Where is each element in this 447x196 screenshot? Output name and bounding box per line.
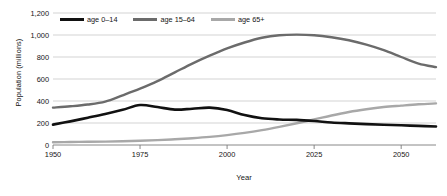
x-axis-title: Year <box>53 173 435 182</box>
legend-swatch-2 <box>211 18 235 20</box>
x-tick-label-2025: 2025 <box>306 150 322 159</box>
plot-area <box>0 0 447 196</box>
x-tick-label-2000: 2000 <box>219 150 235 159</box>
legend-label-0: age 0–14 <box>87 16 117 23</box>
chart-legend: age 0–14age 15–64age 65+ <box>60 16 265 23</box>
legend-item-1[interactable]: age 15–64 <box>133 16 195 23</box>
legend-swatch-0 <box>60 18 84 21</box>
population-line-chart: Population (millions) 02004006008001,000… <box>0 0 447 196</box>
x-tick-label-1950: 1950 <box>45 150 61 159</box>
series-line-age-15-64 <box>53 35 436 108</box>
x-tick-label-2050: 2050 <box>393 150 409 159</box>
legend-item-0[interactable]: age 0–14 <box>60 16 117 23</box>
legend-item-2[interactable]: age 65+ <box>211 16 265 23</box>
x-tick-label-1975: 1975 <box>132 150 148 159</box>
legend-label-2: age 65+ <box>238 16 265 23</box>
legend-label-1: age 15–64 <box>160 16 195 23</box>
legend-swatch-1 <box>133 18 157 20</box>
